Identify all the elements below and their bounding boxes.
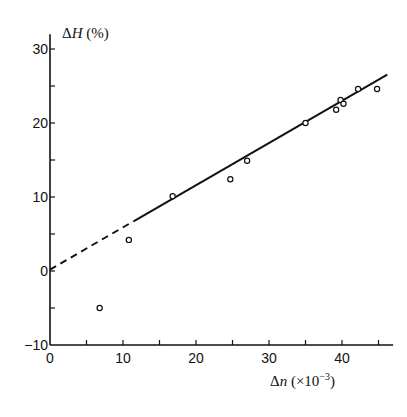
data-point (341, 101, 346, 106)
data-point (245, 158, 250, 163)
y-tick-label: 0 (40, 263, 48, 279)
data-point (170, 194, 175, 199)
axes (50, 34, 393, 345)
data-point (303, 120, 308, 125)
scatter-chart: 010203040−100102030 ΔH (%) Δn (×10−3) (0, 0, 407, 417)
data-point (228, 177, 233, 182)
fit-line-extrapolated (50, 221, 134, 270)
data-points (97, 86, 380, 310)
data-point (374, 86, 379, 91)
data-point (334, 107, 339, 112)
data-point (355, 86, 360, 91)
y-tick-label: 20 (32, 115, 48, 131)
y-axis-title: ΔH (%) (62, 25, 109, 42)
tick-labels: 010203040−100102030 (24, 41, 350, 366)
y-tick-label: −10 (24, 337, 48, 353)
y-tick-label: 10 (32, 189, 48, 205)
data-point (126, 237, 131, 242)
fit-line (50, 75, 387, 270)
tick-marks (50, 49, 379, 345)
data-point (97, 305, 102, 310)
x-tick-label: 40 (334, 350, 350, 366)
x-tick-label: 10 (115, 350, 131, 366)
x-tick-label: 20 (188, 350, 204, 366)
x-axis-title: Δn (×10−3) (270, 371, 335, 390)
x-tick-label: 30 (261, 350, 277, 366)
y-tick-label: 30 (32, 41, 48, 57)
